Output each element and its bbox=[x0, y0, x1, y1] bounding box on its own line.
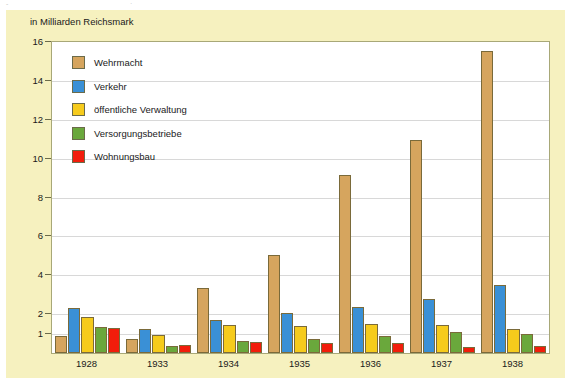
y-axis-tick-label: 4 bbox=[21, 269, 43, 280]
bar-group-1935 bbox=[268, 42, 334, 353]
bar[interactable] bbox=[81, 317, 94, 353]
bar[interactable] bbox=[450, 332, 463, 353]
legend-swatch-icon bbox=[72, 103, 85, 116]
bar[interactable] bbox=[179, 345, 192, 353]
bar[interactable] bbox=[268, 255, 281, 353]
scan-ghost-left: - bbox=[6, 0, 9, 8]
y-axis-tick-label: 6 bbox=[21, 230, 43, 241]
legend-item[interactable]: Wehrmacht bbox=[72, 56, 187, 69]
y-axis-tick-label: 2 bbox=[21, 308, 43, 319]
bar[interactable] bbox=[139, 329, 152, 353]
legend-swatch-icon bbox=[72, 127, 85, 140]
bar[interactable] bbox=[223, 325, 236, 353]
scan-ghost-mid: · bbox=[130, 0, 133, 8]
chart-card: in Milliarden Reichsmark 1614121086421 W… bbox=[6, 10, 565, 378]
y-axis-tick-label: 10 bbox=[21, 152, 43, 163]
bar[interactable] bbox=[308, 339, 321, 353]
y-axis-tick-label: 8 bbox=[21, 191, 43, 202]
legend-item-label: Verkehr bbox=[94, 81, 127, 92]
legend-item-label: Wohnungsbau bbox=[94, 151, 155, 162]
bar-group-1934 bbox=[197, 42, 263, 353]
plot-area: WehrmachtVerkehröffentliche VerwaltungVe… bbox=[51, 41, 550, 354]
bar[interactable] bbox=[250, 342, 263, 353]
legend-item-label: Versorgungsbetriebe bbox=[94, 128, 182, 139]
legend-swatch-icon bbox=[72, 56, 85, 69]
y-axis-tick-label: 12 bbox=[21, 113, 43, 124]
bar[interactable] bbox=[365, 324, 378, 353]
chart-legend: WehrmachtVerkehröffentliche VerwaltungVe… bbox=[72, 56, 187, 174]
bar[interactable] bbox=[197, 288, 210, 353]
bar[interactable] bbox=[281, 313, 294, 353]
bar[interactable] bbox=[237, 341, 250, 353]
legend-item-label: öffentliche Verwaltung bbox=[94, 104, 187, 115]
legend-item[interactable]: Verkehr bbox=[72, 80, 187, 93]
legend-item[interactable]: Wohnungsbau bbox=[72, 150, 187, 163]
bar[interactable] bbox=[210, 320, 223, 353]
bar[interactable] bbox=[392, 343, 405, 353]
bar[interactable] bbox=[294, 326, 307, 353]
bar[interactable] bbox=[494, 285, 507, 353]
bar[interactable] bbox=[534, 346, 547, 353]
y-axis-unit-label: in Milliarden Reichsmark bbox=[30, 16, 133, 27]
legend-item[interactable]: öffentliche Verwaltung bbox=[72, 103, 187, 116]
bar[interactable] bbox=[423, 299, 436, 353]
bar[interactable] bbox=[55, 336, 68, 353]
bar[interactable] bbox=[521, 334, 534, 353]
bar[interactable] bbox=[321, 343, 334, 353]
bar[interactable] bbox=[436, 325, 449, 353]
legend-item[interactable]: Versorgungsbetriebe bbox=[72, 127, 187, 140]
y-axis-tick-label: 14 bbox=[21, 74, 43, 85]
x-axis-tick-label: 1935 bbox=[289, 358, 310, 369]
bar[interactable] bbox=[108, 328, 121, 353]
legend-swatch-icon bbox=[72, 80, 85, 93]
bar[interactable] bbox=[339, 175, 352, 353]
chart-screenshot: - · in Milliarden Reichsmark 16141210864… bbox=[0, 0, 571, 386]
legend-swatch-icon bbox=[72, 150, 85, 163]
bar[interactable] bbox=[126, 339, 139, 353]
bar[interactable] bbox=[95, 327, 108, 353]
x-axis-tick-label: 1938 bbox=[502, 358, 523, 369]
bar[interactable] bbox=[481, 51, 494, 353]
y-axis-tick-label: 1 bbox=[21, 327, 43, 338]
bar-group-1938 bbox=[481, 42, 547, 353]
x-axis-tick-label: 1928 bbox=[76, 358, 97, 369]
bar[interactable] bbox=[152, 335, 165, 353]
x-axis-tick-label: 1937 bbox=[431, 358, 452, 369]
bar[interactable] bbox=[379, 336, 392, 353]
legend-item-label: Wehrmacht bbox=[94, 57, 142, 68]
x-axis-tick-label: 1934 bbox=[218, 358, 239, 369]
bar[interactable] bbox=[166, 346, 179, 353]
bar-group-1936 bbox=[339, 42, 405, 353]
bar[interactable] bbox=[352, 307, 365, 353]
x-axis-tick-label: 1936 bbox=[360, 358, 381, 369]
bar[interactable] bbox=[68, 308, 81, 353]
bar[interactable] bbox=[463, 347, 476, 353]
bar-group-1937 bbox=[410, 42, 476, 353]
bar[interactable] bbox=[507, 329, 520, 353]
bar[interactable] bbox=[410, 140, 423, 353]
x-axis-tick-label: 1933 bbox=[147, 358, 168, 369]
y-axis-tick-label: 16 bbox=[21, 36, 43, 47]
scan-top-strip: - · bbox=[0, 0, 571, 8]
